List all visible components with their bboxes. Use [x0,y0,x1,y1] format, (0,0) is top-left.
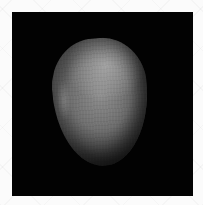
stone-edge-highlight [55,80,72,121]
pebble-stone [49,35,153,169]
photo-frame [12,12,193,196]
